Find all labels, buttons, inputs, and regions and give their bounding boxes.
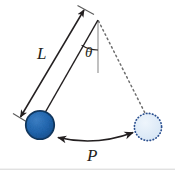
displacement-label: P — [87, 147, 97, 164]
angle-label: θ — [85, 45, 92, 60]
pendulum-bob-displaced — [26, 111, 54, 139]
length-tick-top — [78, 6, 95, 15]
length-label: L — [37, 45, 46, 62]
pendulum-figure: L θ P — [0, 0, 175, 171]
length-tick-bottom — [13, 114, 27, 123]
dashed-swing-path — [99, 21, 147, 115]
displacement-arrow — [58, 133, 133, 142]
pendulum-bob-rest — [134, 113, 161, 140]
